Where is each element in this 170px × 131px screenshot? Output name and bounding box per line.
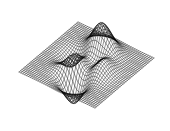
mesh-wireframe-group [19,22,154,108]
mesh-gridline [22,70,98,106]
mesh-surface-plot [0,0,170,131]
mesh-surface-figure [0,0,170,131]
mesh-gridline [74,26,150,62]
mesh-gridline [23,68,99,104]
